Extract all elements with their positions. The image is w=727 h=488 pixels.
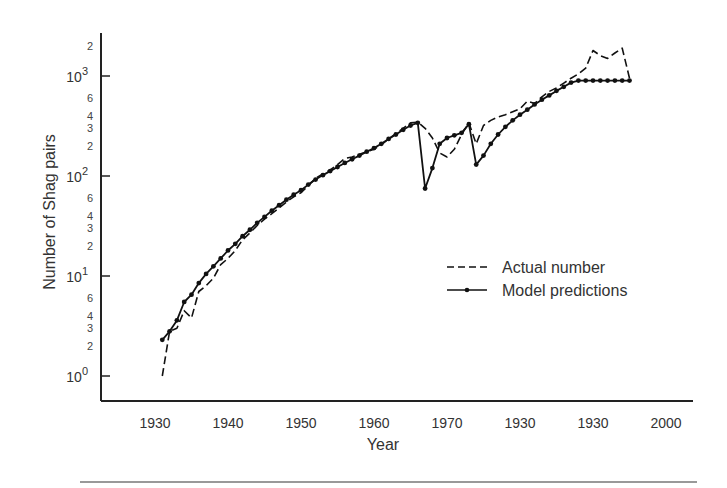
y-minor-tick-label: 6 bbox=[87, 192, 93, 204]
model-data-point bbox=[386, 136, 391, 141]
x-tick-label: 1930 bbox=[504, 415, 535, 431]
model-data-point bbox=[503, 124, 508, 129]
y-axis-title: Number of Shag pairs bbox=[41, 134, 58, 290]
x-tick-label: 1940 bbox=[212, 415, 243, 431]
model-data-point bbox=[561, 84, 566, 89]
legend: Actual number Model predictions bbox=[447, 259, 627, 299]
model-data-point bbox=[189, 292, 194, 297]
model-data-point bbox=[218, 256, 223, 261]
model-data-point bbox=[474, 162, 479, 167]
model-data-point bbox=[467, 122, 472, 127]
y-major-tick-label: 103 bbox=[66, 65, 88, 85]
model-data-point bbox=[226, 248, 231, 253]
model-data-point bbox=[488, 141, 493, 146]
model-data-point bbox=[569, 80, 574, 85]
model-data-point bbox=[299, 188, 304, 193]
model-data-point bbox=[627, 78, 632, 83]
y-minor-tick-label: 2 bbox=[87, 240, 93, 252]
model-data-point bbox=[233, 241, 238, 246]
x-tick-label: 1960 bbox=[358, 415, 389, 431]
model-data-point bbox=[364, 149, 369, 154]
model-data-point bbox=[605, 78, 610, 83]
model-data-point bbox=[525, 107, 530, 112]
model-data-point bbox=[540, 97, 545, 102]
series-actual-number bbox=[162, 48, 629, 376]
model-data-point bbox=[532, 102, 537, 107]
model-data-point bbox=[613, 78, 618, 83]
y-minor-tick-label: 2 bbox=[87, 340, 93, 352]
x-axis: 19301940195019601970193019302000 bbox=[101, 401, 693, 431]
y-axis: 1001011021032346234623462 bbox=[66, 33, 110, 401]
y-minor-tick-label: 2 bbox=[87, 40, 93, 52]
model-data-point bbox=[576, 78, 581, 83]
x-tick-label: 1930 bbox=[577, 415, 608, 431]
y-minor-tick-label: 2 bbox=[87, 140, 93, 152]
line-chart: 1001011021032346234623462 19301940195019… bbox=[0, 0, 727, 488]
model-data-point bbox=[510, 118, 515, 123]
x-tick-label: 2000 bbox=[650, 415, 681, 431]
model-data-point bbox=[459, 130, 464, 135]
model-data-point bbox=[182, 300, 187, 305]
model-data-point bbox=[445, 136, 450, 141]
y-minor-tick-label: 3 bbox=[87, 122, 93, 134]
model-data-point bbox=[269, 208, 274, 213]
model-data-point bbox=[255, 220, 260, 225]
x-tick-label: 1970 bbox=[431, 415, 462, 431]
model-data-point bbox=[160, 337, 165, 342]
series-model-predictions bbox=[160, 78, 632, 342]
model-data-point bbox=[423, 186, 428, 191]
y-minor-tick-label: 6 bbox=[87, 92, 93, 104]
model-data-point bbox=[321, 173, 326, 178]
x-tick-label: 1930 bbox=[139, 415, 170, 431]
y-minor-tick-label: 6 bbox=[87, 292, 93, 304]
y-major-tick-label: 102 bbox=[66, 165, 88, 185]
model-data-point bbox=[401, 127, 406, 132]
model-predictions-line bbox=[162, 81, 629, 340]
model-data-point bbox=[408, 123, 413, 128]
model-data-point bbox=[437, 141, 442, 146]
model-data-point bbox=[430, 166, 435, 171]
y-minor-tick-label: 4 bbox=[87, 210, 93, 222]
model-data-point bbox=[415, 120, 420, 125]
model-data-point bbox=[335, 165, 340, 170]
model-data-point bbox=[342, 161, 347, 166]
y-minor-tick-label: 3 bbox=[87, 322, 93, 334]
model-data-point bbox=[350, 157, 355, 162]
model-data-point bbox=[518, 112, 523, 117]
model-data-point bbox=[211, 264, 216, 269]
model-data-point bbox=[291, 192, 296, 197]
model-data-point bbox=[547, 93, 552, 98]
model-data-point bbox=[481, 153, 486, 158]
legend-label-actual: Actual number bbox=[502, 259, 606, 276]
legend-dot-marker bbox=[465, 288, 470, 293]
model-data-point bbox=[167, 329, 172, 334]
legend-label-model: Model predictions bbox=[502, 282, 627, 299]
model-data-point bbox=[620, 78, 625, 83]
model-data-point bbox=[196, 281, 201, 286]
y-minor-tick-label: 3 bbox=[87, 222, 93, 234]
model-data-point bbox=[583, 78, 588, 83]
actual-number-line bbox=[162, 48, 629, 376]
model-data-point bbox=[175, 318, 180, 323]
model-data-point bbox=[204, 271, 209, 276]
model-data-point bbox=[306, 182, 311, 187]
y-minor-tick-label: 4 bbox=[87, 110, 93, 122]
model-data-point bbox=[328, 169, 333, 174]
x-axis-title: Year bbox=[367, 436, 400, 453]
x-tick-label: 1950 bbox=[285, 415, 316, 431]
model-data-point bbox=[379, 141, 384, 146]
model-data-point bbox=[452, 133, 457, 138]
model-data-point bbox=[240, 234, 245, 239]
y-major-tick-label: 100 bbox=[66, 365, 88, 385]
model-data-point bbox=[262, 214, 267, 219]
model-data-point bbox=[277, 203, 282, 208]
model-data-point bbox=[357, 153, 362, 158]
model-data-point bbox=[372, 146, 377, 151]
model-data-point bbox=[598, 78, 603, 83]
model-data-point bbox=[394, 132, 399, 137]
model-data-point bbox=[248, 227, 253, 232]
y-major-tick-label: 101 bbox=[66, 265, 88, 285]
model-data-point bbox=[591, 78, 596, 83]
model-data-point bbox=[496, 132, 501, 137]
model-data-point bbox=[554, 88, 559, 93]
